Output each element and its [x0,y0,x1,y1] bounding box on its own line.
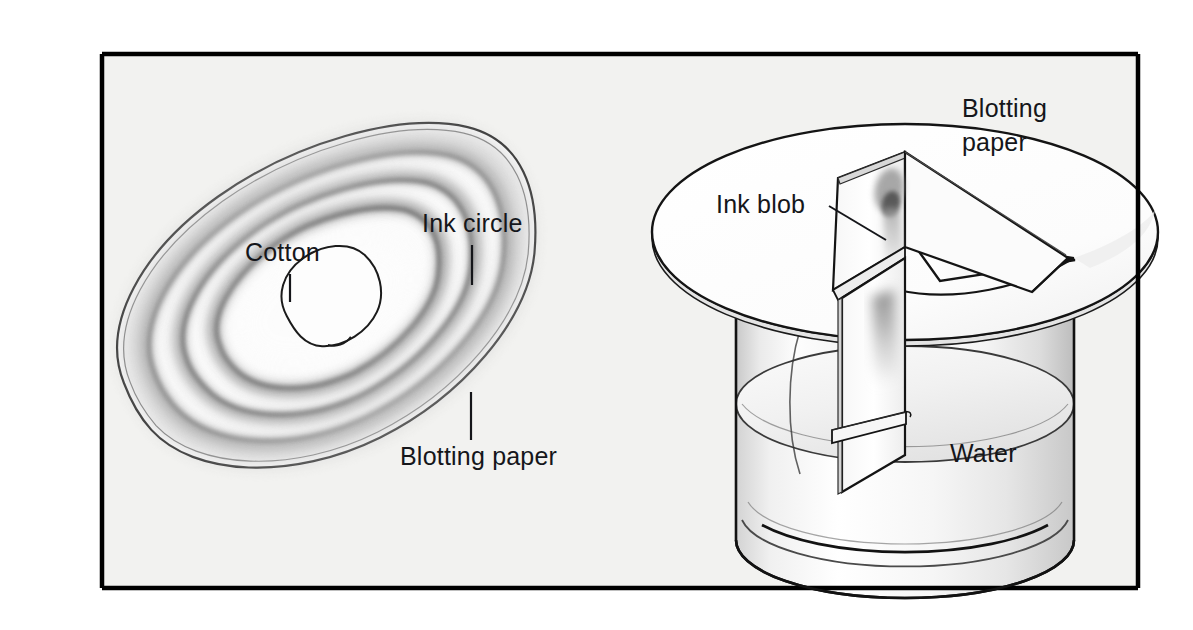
label-blotting-paper-right-line2: paper [962,128,1027,156]
label-water: Water [950,439,1017,467]
paper-strip-hanging [832,247,911,494]
figure-canvas: Cotton Ink circle Blotting paper [0,0,1193,630]
chromatography-diagram: Cotton Ink circle Blotting paper [0,0,1193,630]
paper-strip-left-edge [838,298,842,494]
label-blotting-paper-left: Blotting paper [400,442,557,470]
label-cotton: Cotton [245,238,320,266]
label-blotting-paper-right-line1: Blotting [962,94,1047,122]
label-ink-blob: Ink blob [716,190,805,218]
label-ink-circle: Ink circle [422,209,523,237]
ink-smear-on-strip [872,290,898,386]
